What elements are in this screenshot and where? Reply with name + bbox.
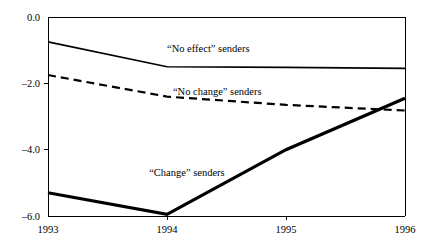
y-tick-label: –4.0 [21,144,40,155]
y-tick-label: 0.0 [27,12,40,23]
x-tick-label: 1993 [38,224,59,235]
line-chart: “No effect” senders“No change” senders“C… [0,0,423,244]
series-annotation-2: “Change” senders [149,167,225,178]
y-tick-label: –6.0 [21,211,40,222]
series-annotation-1: “No change” senders [173,86,262,97]
x-tick-label: 1996 [395,224,416,235]
y-tick-label: –2.0 [21,78,40,89]
series-annotation-0: “No effect” senders [167,43,250,54]
chart-container: “No effect” senders“No change” senders“C… [0,0,423,244]
x-tick-label: 1994 [157,224,179,235]
chart-background [0,0,423,244]
x-tick-label: 1995 [276,224,297,235]
